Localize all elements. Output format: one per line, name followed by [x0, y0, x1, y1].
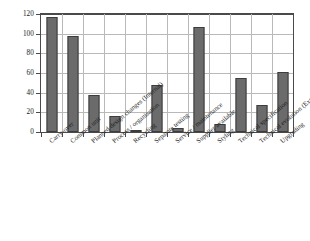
bar-slot	[209, 14, 230, 132]
bar-slot	[146, 14, 167, 132]
bar	[214, 124, 225, 132]
y-axis-tick-label: 60	[27, 68, 34, 78]
y-axis-tick-label: 20	[27, 107, 34, 117]
bar-slot	[251, 14, 272, 132]
x-axis-tick-mark	[83, 133, 84, 137]
bar-slot	[41, 14, 62, 132]
bar-slot	[83, 14, 104, 132]
x-axis-tick-mark	[230, 133, 231, 137]
y-axis-tick-label: 40	[27, 88, 34, 98]
bar-slot	[188, 14, 209, 132]
y-axis-tick-label: 80	[27, 48, 34, 58]
bar-chart-figure: 020406080100120 Carry-overCommon unitPla…	[0, 0, 310, 241]
bar-series	[41, 14, 293, 132]
x-axis-tick-mark	[209, 133, 210, 137]
bar	[130, 130, 141, 132]
x-axis-tick-mark	[188, 133, 189, 137]
bar	[46, 17, 57, 132]
bar-slot	[167, 14, 188, 132]
bar	[172, 128, 183, 132]
bar-slot	[104, 14, 125, 132]
x-axis-tick-mark	[125, 133, 126, 137]
bar-slot	[272, 14, 293, 132]
bar-slot	[230, 14, 251, 132]
x-axis-tick-mark	[272, 133, 273, 137]
bar	[109, 116, 120, 132]
x-axis-tick-mark	[293, 133, 294, 137]
bar	[256, 105, 267, 132]
x-axis-tick-mark	[251, 133, 252, 137]
x-axis-tick-mark	[62, 133, 63, 137]
bar	[235, 78, 246, 132]
bar	[88, 95, 99, 132]
bar	[67, 36, 78, 132]
x-axis-tick-mark	[167, 133, 168, 137]
y-axis-tick-label: 120	[23, 9, 34, 19]
y-axis-tick-label: 0	[30, 127, 34, 137]
bar	[151, 85, 162, 132]
bar	[193, 27, 204, 132]
bar-slot	[62, 14, 83, 132]
y-axis-tick-label: 100	[23, 29, 34, 39]
y-axis: 020406080100120	[0, 8, 40, 138]
x-axis-tick-mark	[41, 133, 42, 137]
x-axis-tick-mark	[146, 133, 147, 137]
x-axis-tick-mark	[104, 133, 105, 137]
bar	[277, 72, 288, 132]
bar-slot	[125, 14, 146, 132]
